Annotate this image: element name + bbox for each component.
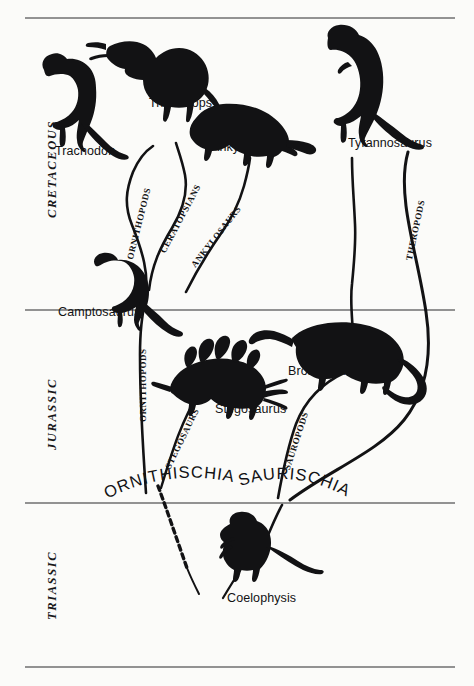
silhouette-brontosaurus bbox=[292, 322, 404, 395]
branch-line-sauropods bbox=[278, 372, 346, 498]
silhouette-tyrannosaurus bbox=[327, 25, 383, 147]
silhouette-ankylosaurus bbox=[190, 104, 298, 168]
silhouette-triceratops-horns bbox=[86, 42, 108, 60]
silhouette-coelophysis-tail bbox=[266, 546, 324, 574]
branch-line-ornithischian-root-tail bbox=[187, 568, 199, 594]
period-label-triassic: TRIASSIC bbox=[45, 551, 60, 620]
silhouette-camptosaurus-tail bbox=[139, 300, 183, 337]
period-label-jurassic: JURASSIC bbox=[45, 378, 60, 450]
silhouette-stegosaurus-head bbox=[151, 382, 172, 392]
branch-line-sauropods-upper bbox=[351, 158, 355, 333]
taxon-label-coelophysis: Coelophysis bbox=[227, 591, 296, 605]
taxon-label-camptosaurus: Camptosaurus bbox=[58, 305, 141, 319]
period-label-cretaceous: CRETACEOUS bbox=[45, 120, 60, 218]
taxon-label-stegosaurus: Stegosaurus bbox=[215, 402, 286, 416]
branch-label-ornithopods-jurassic: ORNITHOPODS bbox=[138, 348, 148, 422]
taxon-label-trachodon: Trachodon bbox=[55, 144, 115, 158]
chart-canvas: ORNITHISCHIANS SAURISCHIANS bbox=[0, 0, 474, 686]
taxon-label-tyrannosaurus: Tyrannosaurus bbox=[348, 136, 432, 150]
silhouette-brontosaurus-neck bbox=[249, 330, 294, 347]
dinosaur-evolution-chart: ORNITHISCHIANS SAURISCHIANS CRETACEOUS J… bbox=[0, 0, 474, 686]
dinosaur-silhouettes bbox=[42, 25, 426, 582]
taxon-label-brontosaurus: Brontosaurus bbox=[288, 364, 364, 378]
taxon-label-ankylosaurus: Ankylosaurus bbox=[211, 140, 287, 154]
silhouette-triceratops bbox=[106, 41, 208, 122]
branch-line-ornithischian-root-dashed bbox=[158, 486, 187, 568]
taxon-label-triceratops: Triceratops bbox=[149, 96, 212, 110]
silhouette-tyrannosaurus-arms bbox=[338, 62, 352, 74]
